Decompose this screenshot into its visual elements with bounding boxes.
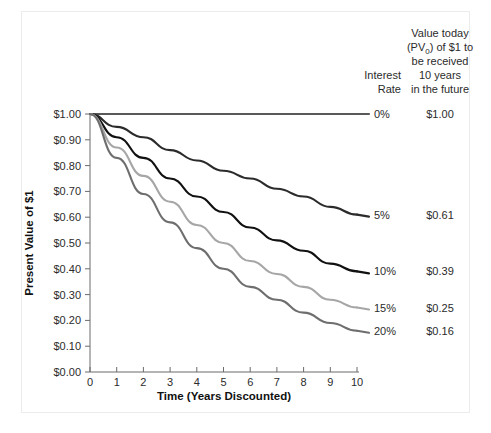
legend-rate-5: 5% (374, 209, 390, 221)
legend-header-value-line1: Value today (411, 27, 469, 39)
legend-value-0: $1.00 (426, 108, 454, 120)
legend-swatch-10 (357, 271, 369, 273)
legend-rate-15: 15% (374, 302, 396, 314)
legend-value-15: $0.25 (426, 302, 454, 314)
legend-rate-0: 0% (374, 108, 390, 120)
pv-prefix: (PV (407, 41, 426, 53)
legend-header-interest-line1: Interest (364, 69, 401, 81)
legend-row: 20%$0.16 (357, 325, 454, 337)
legend-row: 15%$0.25 (357, 302, 454, 314)
legend-row: 0%$1.00 (357, 108, 454, 120)
legend-swatch-15 (357, 308, 369, 310)
legend-header-value-line4: 10 years (419, 69, 462, 81)
y-axis-title: Present Value of $1 (23, 190, 35, 296)
legend-row: 5%$0.61 (357, 209, 454, 221)
legend-value-10: $0.39 (426, 265, 454, 277)
legend-value-5: $0.61 (426, 209, 454, 221)
pv-suffix: ) of $1 to (430, 41, 473, 53)
legend-header-value-line5: in the future (411, 83, 469, 95)
legend-rate-10: 10% (374, 265, 396, 277)
chart-text-layer: Present Value of $1 Time (Years Discount… (0, 0, 491, 433)
legend-value-20: $0.16 (426, 325, 454, 337)
legend-header-value-line2: (PV0) of $1 to (407, 41, 473, 56)
legend-rate-20: 20% (374, 325, 396, 337)
legend-header-value-line3: be received (412, 55, 469, 67)
legend-row: 10%$0.39 (357, 265, 454, 277)
x-axis-title: Time (Years Discounted) (157, 390, 291, 402)
legend-rows: 0%$1.005%$0.6110%$0.3915%$0.2520%$0.16 (357, 108, 454, 337)
legend-header-interest-line2: Rate (378, 83, 401, 95)
chart-figure: $0.00$0.10$0.20$0.30$0.40$0.50$0.60$0.70… (0, 0, 491, 433)
legend-swatch-20 (357, 331, 369, 333)
legend-swatch-5 (357, 215, 369, 217)
